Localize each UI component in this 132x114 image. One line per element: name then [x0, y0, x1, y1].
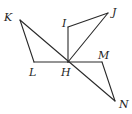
point-label-h: H — [60, 66, 71, 79]
geometry-figure: KLHIJMN — [0, 0, 132, 114]
point-label-i: I — [61, 17, 67, 30]
diagram-canvas: KLHIJMN — [0, 0, 132, 114]
point-label-j: J — [110, 6, 117, 19]
point-label-k: K — [3, 11, 13, 24]
point-label-m: M — [97, 49, 110, 62]
point-label-l: L — [28, 66, 36, 79]
point-label-n: N — [118, 98, 129, 111]
